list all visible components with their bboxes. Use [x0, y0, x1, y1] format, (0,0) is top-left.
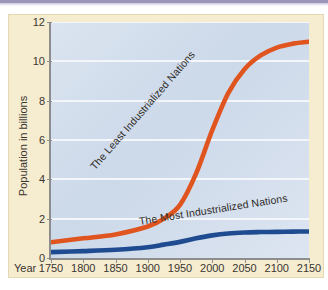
x-tick-mark: [180, 258, 181, 263]
x-tick-label: 1900: [136, 262, 160, 274]
x-tick-label: 2000: [200, 262, 224, 274]
y-tick-mark: [47, 61, 52, 62]
y-axis-title: Population in billions: [17, 61, 29, 231]
x-tick-mark: [309, 258, 310, 263]
line-most-industrialized-nations: [51, 231, 309, 252]
x-tick-label: 2100: [265, 262, 289, 274]
top-divider-fade: [0, 3, 328, 6]
x-tick-label: 1750: [39, 262, 63, 274]
x-axis-title: Year: [14, 262, 36, 274]
y-axis-spine: [49, 22, 51, 260]
x-tick-mark: [83, 258, 84, 263]
y-tick-mark: [47, 179, 52, 180]
x-tick-mark: [116, 258, 117, 263]
y-tick-mark: [47, 101, 52, 102]
x-tick-label: 2150: [297, 262, 321, 274]
y-tick-label: 12: [26, 16, 45, 28]
y-tick-mark: [47, 22, 52, 23]
chart-figure: 024681012 175018001850190019502000205021…: [0, 0, 328, 290]
y-tick-mark: [47, 140, 52, 141]
x-tick-mark: [148, 258, 149, 263]
x-tick-mark: [212, 258, 213, 263]
x-tick-label: 1800: [71, 262, 95, 274]
x-tick-label: 1850: [103, 262, 127, 274]
x-tick-mark: [277, 258, 278, 263]
x-tick-label: 2050: [232, 262, 256, 274]
x-tick-mark: [245, 258, 246, 263]
x-tick-mark: [51, 258, 52, 263]
x-tick-label: 1950: [168, 262, 192, 274]
y-tick-mark: [47, 219, 52, 220]
